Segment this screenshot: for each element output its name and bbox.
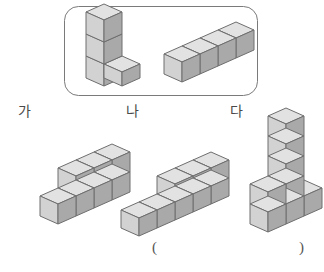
choice-label-ga: 가 <box>18 104 31 118</box>
cube <box>250 196 286 232</box>
cube <box>121 202 157 236</box>
choice-da-shape <box>250 108 322 232</box>
choice-na-shape <box>121 152 229 236</box>
cube <box>86 4 122 42</box>
cube <box>40 188 76 224</box>
answer-close-paren: ) <box>299 240 304 255</box>
piece-bar <box>164 22 254 82</box>
choice-label-da: 다 <box>230 104 243 118</box>
piece-L <box>86 4 140 86</box>
answer-blank[interactable] <box>160 238 298 258</box>
cube <box>164 46 200 82</box>
choice-label-na: 나 <box>126 104 139 118</box>
answer-open-paren: ( <box>152 240 157 255</box>
cube-figure-svg <box>0 0 324 272</box>
figure-stage: 가 나 다 ( ) <box>0 0 324 272</box>
choice-ga-shape <box>40 144 130 224</box>
